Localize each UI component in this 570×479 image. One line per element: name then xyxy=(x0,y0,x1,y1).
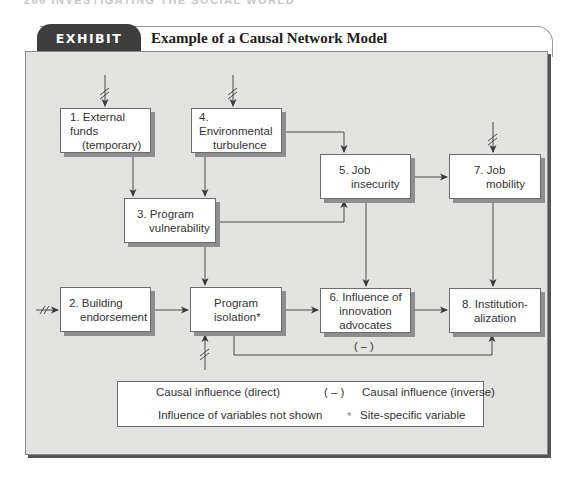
node-external-funds: 1. External funds (temporary) xyxy=(60,108,151,153)
node-innovation-advocates: 6. Influence of innovation advocates xyxy=(320,288,411,333)
legend-site-marker: * xyxy=(347,410,351,422)
node-label: mobility xyxy=(474,177,540,191)
node-job-insecurity: 5. Job insecurity xyxy=(320,154,411,199)
node-label: (temporary) xyxy=(70,138,150,152)
node-label: 2. Building xyxy=(69,296,150,310)
node-label: 6. Influence of xyxy=(321,290,410,304)
node-label: innovation xyxy=(321,304,410,318)
node-label: insecurity xyxy=(339,177,410,191)
legend-direct-label: Causal influence (direct) xyxy=(156,386,280,398)
node-label: isolation* xyxy=(214,310,281,324)
inverse-edge-label: ( – ) xyxy=(354,340,374,352)
node-program-isolation: Program isolation* xyxy=(190,287,282,332)
node-program-vulnerability: 3. Program vulnerability xyxy=(124,198,216,243)
edge-4-to-5 xyxy=(282,132,344,152)
node-job-mobility: 7. Job mobility xyxy=(449,154,541,199)
node-label: 8. Institution- xyxy=(450,297,540,311)
legend-not-shown-label: Influence of variables not shown xyxy=(158,409,322,421)
legend-inverse-marker: ( – ) xyxy=(324,386,344,398)
node-environmental-turbulence: 4. Environmental turbulence xyxy=(191,108,282,153)
node-label: 5. Job xyxy=(339,163,410,177)
node-label: 7. Job xyxy=(474,163,540,177)
node-label: advocates xyxy=(321,318,410,332)
node-label: Program xyxy=(214,296,281,310)
node-label: alization xyxy=(450,311,540,325)
node-label: endorsement xyxy=(69,310,150,324)
edge-3-to-5 xyxy=(216,201,344,222)
node-label: vulnerability xyxy=(137,221,215,235)
node-label: 1. External funds xyxy=(70,110,150,138)
node-building-endorsement: 2. Building endorsement xyxy=(60,287,151,332)
node-label: 4. Environmental xyxy=(199,110,281,138)
node-institutionalization: 8. Institution- alization xyxy=(449,288,541,333)
legend-site-label: Site-specific variable xyxy=(360,409,465,421)
legend: Causal influence (direct) ( – ) Causal i… xyxy=(117,381,484,427)
legend-inverse-label: Causal influence (inverse) xyxy=(362,386,495,398)
node-label: 3. Program xyxy=(137,207,215,221)
node-label: turbulence xyxy=(199,138,281,152)
